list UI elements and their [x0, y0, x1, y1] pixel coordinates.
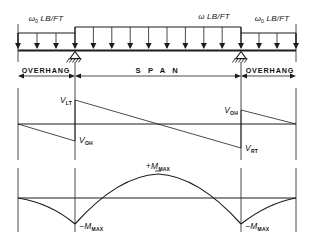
moment-label-center-peak: +MMAX	[146, 161, 171, 172]
shear-label-right-top: VOH	[224, 105, 238, 116]
load-arrows-right	[256, 33, 299, 49]
moment-label-right-support: −MMAX	[245, 221, 270, 232]
support-left	[67, 52, 82, 63]
shear-seg-left-overhang	[18, 124, 75, 141]
shear-label-left-top: VLT	[60, 95, 72, 106]
load-arrows-center	[72, 27, 244, 49]
dimension-label-left-overhang: OVERHANG	[22, 66, 71, 75]
moment-curve-span-right	[158, 174, 241, 224]
dimension-label-span: S P A N	[136, 66, 181, 75]
load-arrows-left	[15, 33, 59, 49]
load-label-right: ω0 LB/FT	[255, 14, 291, 24]
moment-curve-left-overhang	[18, 198, 75, 224]
load-diagram	[15, 27, 299, 51]
shear-label-left-bottom: VOH	[79, 135, 93, 146]
dimension-label-right-overhang: OVERHANG	[246, 66, 295, 75]
shear-diagram	[18, 100, 296, 148]
figure-root: ω0 LB/FT ω LB/FT ω0 LB/FT OVERHANG S P A…	[0, 0, 314, 239]
moment-diagram	[18, 171, 296, 224]
support-right	[233, 52, 248, 63]
shear-seg-right-overhang	[241, 110, 296, 124]
beam-diagram-svg: ω0 LB/FT ω LB/FT ω0 LB/FT OVERHANG S P A…	[0, 0, 314, 239]
load-label-left: ω0 LB/FT	[29, 14, 65, 24]
load-label-center: ω LB/FT	[198, 12, 231, 21]
shear-label-right-bottom: VRT	[245, 143, 258, 154]
moment-curve-span-left	[75, 174, 158, 224]
reference-lines	[18, 24, 296, 232]
moment-label-left-support: −MMAX	[79, 221, 104, 232]
